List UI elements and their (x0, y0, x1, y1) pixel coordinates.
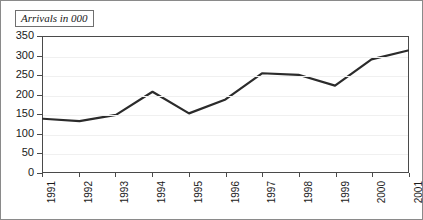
y-axis-tick-label: 50 (1, 147, 34, 158)
y-axis-tick-label: 100 (1, 128, 34, 139)
x-axis-tick-label: 1997 (267, 181, 277, 203)
y-axis-tick-label: 150 (1, 108, 34, 119)
y-axis-tick-label: 250 (1, 69, 34, 80)
x-axis-tick-label: 1998 (304, 181, 314, 203)
x-axis-tick-mark (372, 173, 373, 177)
y-axis-tick-label: 0 (1, 167, 34, 178)
y-axis-tick-label: 200 (1, 89, 34, 100)
x-axis-tick-label: 1992 (84, 181, 94, 203)
x-axis-tick-mark (115, 173, 116, 177)
x-axis-tick-label: 2000 (377, 181, 387, 203)
y-axis-tick-label: 300 (1, 50, 34, 61)
x-axis-tick-mark (152, 173, 153, 177)
x-axis-tick-label: 1995 (194, 181, 204, 203)
x-axis-tick-label: 1991 (47, 181, 57, 203)
x-axis-tick-mark (42, 173, 43, 177)
x-axis-tick-mark (336, 173, 337, 177)
x-axis-tick-mark (79, 173, 80, 177)
x-axis-tick-mark (409, 173, 410, 177)
line-series-path (43, 51, 408, 122)
x-axis-tick-mark (189, 173, 190, 177)
gridline (43, 154, 408, 155)
x-axis-tick-label: 2001 (414, 181, 423, 203)
gridline (43, 135, 408, 136)
x-axis-tick-mark (299, 173, 300, 177)
x-axis-tick-mark (262, 173, 263, 177)
chart-frame: Arrivals in 000 050100150200250300350 19… (0, 0, 423, 220)
y-axis: 050100150200250300350 (1, 1, 42, 220)
x-axis-tick-label: 1993 (120, 181, 130, 203)
gridline (43, 96, 408, 97)
x-axis-tick-label: 1996 (231, 181, 241, 203)
x-axis-tick-label: 1994 (157, 181, 167, 203)
x-axis-tick-mark (226, 173, 227, 177)
y-axis-tick-label: 350 (1, 30, 34, 41)
gridline (43, 57, 408, 58)
plot-area (42, 36, 409, 173)
x-axis-tick-label: 1999 (341, 181, 351, 203)
gridline (43, 115, 408, 116)
gridline (43, 76, 408, 77)
x-axis: 1991199219931994199519961997199819992000… (42, 173, 409, 220)
